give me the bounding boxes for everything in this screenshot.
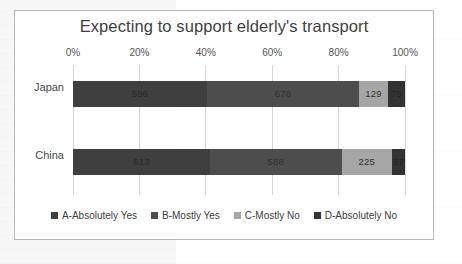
bar-segment: 225 <box>342 149 392 175</box>
bar-segment-value: 613 <box>133 157 149 167</box>
x-axis-tick-labels: 0%20%40%60%80%100% <box>73 47 405 61</box>
legend-swatch-icon <box>51 212 58 219</box>
figure-caption <box>16 246 452 262</box>
x-axis-tick-label: 100% <box>392 47 418 58</box>
legend-swatch-icon <box>314 212 321 219</box>
bar-row: China61358822557 <box>73 149 405 175</box>
bar-segment-value: 129 <box>365 89 381 99</box>
legend-item-label: A-Absolutely Yes <box>62 210 137 221</box>
bar-segment: 678 <box>207 81 359 107</box>
x-axis-tick-label: 20% <box>129 47 149 58</box>
legend-item-label: D-Absolutely No <box>325 210 397 221</box>
legend-swatch-icon <box>234 212 241 219</box>
bar-segment-value: 588 <box>268 157 284 167</box>
legend-item[interactable]: A-Absolutely Yes <box>51 210 137 221</box>
bar-segment: 613 <box>73 149 210 175</box>
legend-item[interactable]: B-Mostly Yes <box>151 210 220 221</box>
bar-segment: 596 <box>73 81 207 107</box>
bar-segment-value: 596 <box>132 89 148 99</box>
bar-segment: 129 <box>359 81 388 107</box>
bar-segment-value: 678 <box>275 89 291 99</box>
bar-segment: 57 <box>392 149 405 175</box>
bar-segment-value: 57 <box>393 157 404 167</box>
legend-item-label: B-Mostly Yes <box>162 210 220 221</box>
bar-segment: 75 <box>388 81 405 107</box>
legend-item[interactable]: D-Absolutely No <box>314 210 397 221</box>
chart-title: Expecting to support elderly's transport <box>15 17 433 36</box>
x-axis-tick-label: 80% <box>329 47 349 58</box>
chart-container: Expecting to support elderly's transport… <box>14 10 434 240</box>
legend-item-label: C-Mostly No <box>245 210 300 221</box>
bar-segment: 588 <box>210 149 341 175</box>
category-label: China <box>35 149 64 161</box>
plot-area: Japan59667812975China61358822557 <box>73 65 405 195</box>
x-axis-tick-label: 0% <box>66 47 80 58</box>
category-label: Japan <box>34 81 64 93</box>
bar-segment-value: 75 <box>391 89 402 99</box>
bar-row: Japan59667812975 <box>73 81 405 107</box>
legend-swatch-icon <box>151 212 158 219</box>
legend-item[interactable]: C-Mostly No <box>234 210 300 221</box>
bar-segment-value: 225 <box>359 157 375 167</box>
x-axis-tick-label: 60% <box>262 47 282 58</box>
x-axis-tick-label: 40% <box>196 47 216 58</box>
chart-legend: A-Absolutely YesB-Mostly YesC-Mostly NoD… <box>15 210 433 221</box>
